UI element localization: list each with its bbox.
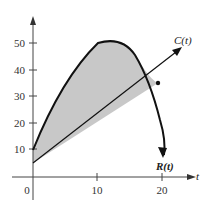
- x-axis-label: t: [196, 170, 200, 182]
- y-tick-10: 10: [14, 143, 26, 155]
- shaded-region: [33, 41, 158, 163]
- cost-label: C(t): [174, 34, 192, 47]
- chart: 50 40 30 20 10 0 10 20 t C(t) R(t): [0, 0, 206, 213]
- x-tick-0: 0: [24, 184, 30, 196]
- y-tick-30: 30: [14, 90, 26, 102]
- x-axis-arrow-icon: [187, 174, 196, 180]
- revenue-label: R(t): [155, 160, 174, 173]
- y-axis-arrow-icon: [30, 16, 36, 25]
- y-tick-50: 50: [14, 37, 26, 49]
- y-tick-20: 20: [14, 117, 26, 129]
- y-tick-40: 40: [14, 64, 26, 76]
- x-tick-10: 10: [92, 184, 104, 196]
- x-tick-20: 20: [157, 184, 169, 196]
- intersection-point: [156, 81, 160, 85]
- revenue-curve-arrow-icon: [158, 147, 167, 158]
